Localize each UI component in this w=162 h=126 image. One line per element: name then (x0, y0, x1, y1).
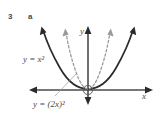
dashed-parabola-left-arrowhead (62, 29, 68, 37)
solid-parabola-right-arrowhead (130, 27, 137, 36)
y-axis-up-arrowhead (85, 26, 92, 34)
parabola-graph: y x y = x² y = (2x)² (0, 0, 162, 126)
x-axis-left-arrowhead (29, 87, 37, 94)
x-axis-label: x (141, 91, 146, 101)
solid-parabola-left-arrowhead (40, 27, 47, 36)
figure-container: 3 a y x (0, 0, 162, 126)
y-axis-label: y (79, 26, 84, 36)
y-axis-down-arrowhead (85, 97, 92, 105)
dashed-parabola-right-arrowhead (107, 29, 113, 37)
x-axis-right-arrowhead (145, 87, 153, 94)
y-axis (85, 26, 92, 105)
solid-curve-label: y = x² (22, 54, 45, 64)
dashed-curve-label: y = (2x)² (32, 99, 65, 109)
